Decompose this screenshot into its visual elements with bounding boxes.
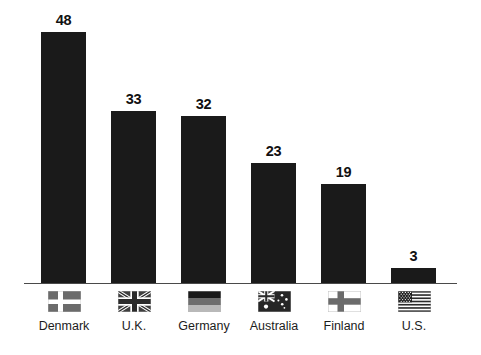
plot-area: 48 33 32 23 19 3 — [24, 0, 457, 284]
category-label-us: U.S. — [379, 319, 449, 333]
category-label-germany: Germany — [169, 319, 239, 333]
bar-uk[interactable] — [111, 111, 156, 284]
category-cell-denmark: Denmark — [29, 288, 99, 333]
flag-germany-svg — [188, 291, 221, 312]
category-label-australia: Australia — [239, 319, 309, 333]
bar-finland[interactable] — [321, 184, 366, 284]
bar-value-finland: 19 — [321, 164, 366, 180]
bar-chart: 48 33 32 23 19 3 — [0, 0, 481, 355]
bar-group-uk: 33 — [111, 0, 156, 284]
flag-australia-icon — [239, 288, 309, 314]
category-axis-row: Denmark — [24, 288, 457, 352]
bar-group-finland: 19 — [321, 0, 366, 284]
flag-us-icon — [379, 288, 449, 314]
bar-group-australia: 23 — [251, 0, 296, 284]
bar-value-germany: 32 — [181, 96, 226, 112]
bar-group-germany: 32 — [181, 0, 226, 284]
flag-denmark-svg — [48, 291, 81, 312]
category-cell-australia: Australia — [239, 288, 309, 333]
flag-finland-icon — [309, 288, 379, 314]
flag-uk-icon — [99, 288, 169, 314]
category-cell-us: U.S. — [379, 288, 449, 333]
category-label-finland: Finland — [309, 319, 379, 333]
flag-finland-svg — [328, 291, 361, 312]
bar-australia[interactable] — [251, 163, 296, 284]
category-label-denmark: Denmark — [29, 319, 99, 333]
category-label-uk: U.K. — [99, 319, 169, 333]
bar-denmark[interactable] — [41, 32, 86, 284]
category-cell-uk: U.K. — [99, 288, 169, 333]
bar-value-australia: 23 — [251, 143, 296, 159]
x-axis-baseline — [24, 283, 457, 284]
bar-value-us: 3 — [391, 248, 436, 264]
bar-value-uk: 33 — [111, 91, 156, 107]
category-cell-finland: Finland — [309, 288, 379, 333]
bar-value-denmark: 48 — [41, 12, 86, 28]
flag-australia-svg — [258, 291, 291, 312]
bar-group-us: 3 — [391, 0, 436, 284]
bar-germany[interactable] — [181, 116, 226, 284]
flag-germany-icon — [169, 288, 239, 314]
bar-group-denmark: 48 — [41, 0, 86, 284]
flag-denmark-icon — [29, 288, 99, 314]
category-cell-germany: Germany — [169, 288, 239, 333]
bar-us[interactable] — [391, 268, 436, 284]
flag-uk-svg — [118, 291, 151, 312]
flag-us-svg — [398, 291, 431, 312]
